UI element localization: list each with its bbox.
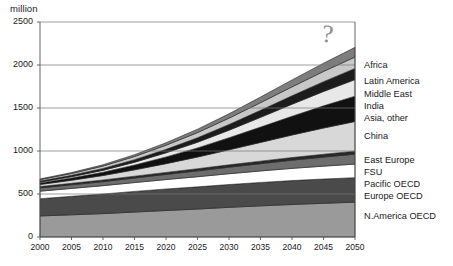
y-tick-label: 500 <box>3 188 33 198</box>
x-tick-label: 2035 <box>244 242 278 252</box>
x-tick-label: 2020 <box>149 242 183 252</box>
x-tick-label: 2025 <box>181 242 215 252</box>
legend-label-asia-other: Asia, other <box>364 113 408 123</box>
x-tick-label: 2010 <box>86 242 120 252</box>
x-tick-label: 2045 <box>307 242 341 252</box>
area-bands-group <box>40 47 355 237</box>
x-tick-label: 2000 <box>23 242 57 252</box>
legend-label-europe-oecd: Europe OECD <box>364 191 423 201</box>
legend-label-china: China <box>364 131 388 141</box>
y-tick-label: 2500 <box>3 16 33 26</box>
x-tick-label: 2005 <box>55 242 89 252</box>
y-tick-label: 1000 <box>3 145 33 155</box>
x-tick-label: 2050 <box>338 242 372 252</box>
legend-label-pacific-oecd: Pacific OECD <box>364 179 420 189</box>
y-tick-label: 1500 <box>3 102 33 112</box>
legend-label-n-america-oecd: N.America OECD <box>364 211 436 221</box>
y-tick-label: 2000 <box>3 59 33 69</box>
x-tick-label: 2030 <box>212 242 246 252</box>
y-tick-label: 0 <box>3 231 33 241</box>
x-tick-label: 2015 <box>118 242 152 252</box>
legend-label-east-europe: East Europe <box>364 155 415 165</box>
stacked-area-chart: million 05001000150020002500 20002005201… <box>0 0 453 266</box>
legend-label-middle-east: Middle East <box>364 89 412 99</box>
legend-label-latin-america: Latin America <box>364 76 420 86</box>
legend-label-fsu: FSU <box>364 167 382 177</box>
x-tick-label: 2040 <box>275 242 309 252</box>
legend-label-india: India <box>364 101 384 111</box>
legend-label-africa: Africa <box>364 60 388 70</box>
